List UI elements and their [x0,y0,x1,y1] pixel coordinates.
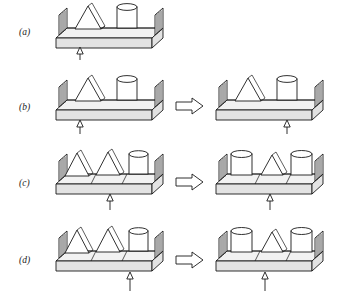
object-triangle [75,3,105,29]
tray-front-face [56,38,152,48]
balance-beam-d-left [55,221,170,291]
fulcrum-pointer [77,47,83,60]
figure-row-a: (a) [0,0,344,65]
object-triangle [235,75,265,101]
rightwards-block-arrow-icon [175,251,205,269]
object-cylinder [231,151,252,176]
balance-beam-c-right [215,146,330,210]
object-cylinder [277,76,297,100]
transform-arrow-d [175,251,205,269]
figure-row-b: (b) [0,72,344,140]
object-triangle [96,149,124,175]
object-cylinder [117,4,137,28]
tray-front-face [216,110,312,120]
balance-beam-d-right [215,221,330,291]
fulcrum-pointer [262,272,268,291]
tray-front-face [216,261,312,271]
transform-arrow-c [175,173,205,191]
object-cylinder [291,151,312,176]
rightwards-block-arrow-icon [175,173,205,191]
balance-beam-a-left [55,0,170,60]
fulcrum-pointer [127,272,133,291]
tray-top-surface [216,251,323,261]
object-cylinder [291,228,312,253]
object-cylinder [117,76,137,100]
tray-top-surface [56,100,163,110]
tray-top-surface [216,100,323,110]
panel-d-left [55,221,170,291]
object-triangle [65,150,93,176]
panel-d-right [215,221,330,291]
object-triangle [261,152,287,175]
balance-beam-figure: (a) [0,0,344,295]
row-label-a: (a) [19,27,30,37]
figure-row-d: (d) [0,221,344,295]
tray-front-face [216,184,312,194]
tray-top-surface [56,28,163,38]
balance-beam-b-left [55,72,170,134]
panel-c-left [55,146,170,210]
object-triangle [65,227,93,253]
figure-row-c: (c) [0,146,344,216]
object-triangle [75,75,105,101]
object-cylinder [231,228,252,253]
panel-b-left [55,72,170,134]
tray-top-surface [216,174,323,184]
object-cylinder [129,151,148,174]
tray-front-face [56,110,152,120]
panel-b-right [215,72,330,134]
fulcrum-pointer [77,120,83,134]
transform-arrow-b [175,97,205,115]
tray-front-face [56,261,152,271]
balance-beam-c-left [55,146,170,210]
panel-a-left [55,0,170,60]
row-label-c: (c) [19,178,30,188]
object-triangle [96,226,124,252]
row-label-b: (b) [19,102,30,112]
balance-beam-b-right [215,72,330,134]
tray-front-face [56,184,152,194]
row-label-d: (d) [19,255,30,265]
rightwards-block-arrow-icon [175,97,205,115]
object-triangle [261,229,287,252]
fulcrum-pointer [267,194,273,210]
object-cylinder [129,228,148,251]
fulcrum-pointer [107,194,113,210]
panel-c-right [215,146,330,210]
fulcrum-pointer [284,120,290,134]
